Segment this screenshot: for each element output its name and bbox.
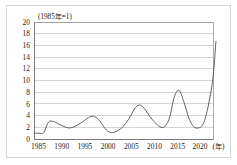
y-tick-label: 16: [23, 41, 31, 50]
y-tick-label: 12: [23, 64, 31, 73]
x-tick-label: 1985: [31, 142, 46, 151]
data-series-line: [34, 41, 216, 133]
x-axis-unit-label: (年): [213, 142, 225, 151]
x-tick-label: 2010: [147, 142, 162, 151]
x-tick-label: 2005: [124, 142, 139, 151]
y-tick-label: 10: [23, 76, 31, 85]
y-tick-label: 0: [26, 135, 30, 144]
y-tick-label: 14: [23, 53, 31, 62]
x-axis-tick-labels: 1985 1990 1995 2000 2005 2010 2015 2020 …: [31, 142, 225, 151]
y-axis-tick-labels: 20 18 16 14 12 10 8 6 4 2 0: [23, 18, 31, 144]
plot-gridlines: [34, 22, 213, 127]
x-tick-label: 1995: [78, 142, 93, 151]
line-chart: 20 18 16 14 12 10 8 6 4 2 0 1985 1990 19…: [0, 0, 237, 165]
y-tick-label: 6: [26, 100, 30, 109]
chart-unit-note: (1985年=1): [38, 12, 72, 21]
y-tick-label: 18: [23, 29, 31, 38]
x-tick-label: 2000: [101, 142, 116, 151]
x-tick-label: 2020: [193, 142, 208, 151]
y-tick-label: 8: [26, 88, 30, 97]
y-tick-label: 4: [26, 111, 30, 120]
y-tick-label: 20: [23, 18, 31, 27]
chart-figure: 20 18 16 14 12 10 8 6 4 2 0 1985 1990 19…: [0, 0, 237, 165]
y-tick-label: 2: [26, 123, 30, 132]
x-tick-label: 1990: [54, 142, 69, 151]
x-tick-label: 2015: [170, 142, 185, 151]
